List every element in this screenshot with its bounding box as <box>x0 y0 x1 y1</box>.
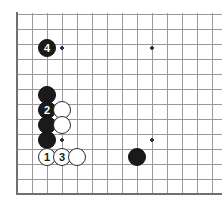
stone-white-3-label: 3 <box>59 152 65 163</box>
stone-white-right <box>68 148 86 166</box>
stone-black-4: 4 <box>38 39 56 57</box>
stone-black-4-label: 4 <box>44 43 50 54</box>
go-board-diagram: 4213 <box>0 0 222 200</box>
stone-white-mid <box>53 116 71 134</box>
stone-white-1-label: 1 <box>44 152 50 163</box>
stone-layer: 4213 <box>0 0 222 200</box>
stone-black-2-label: 2 <box>44 105 50 116</box>
stone-black-wall-low <box>38 131 56 149</box>
stone-black-lower-right <box>128 148 146 166</box>
